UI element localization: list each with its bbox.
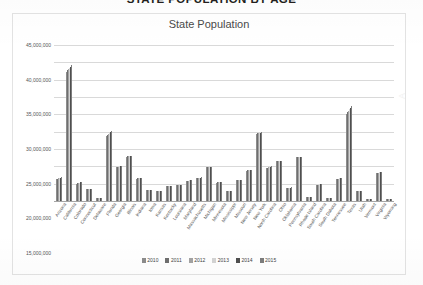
bar-group — [264, 45, 274, 201]
legend-label: 2010 — [147, 257, 158, 263]
bar — [161, 191, 162, 201]
bar — [61, 177, 62, 201]
legend-swatch — [189, 258, 193, 263]
bar — [181, 185, 182, 201]
plot-area: 45,000,00040,000,00035,000,00030,000,000… — [54, 45, 394, 201]
bar — [271, 166, 272, 201]
bar-group — [354, 45, 364, 201]
bar-group — [194, 45, 204, 201]
bar — [261, 132, 262, 201]
legend-swatch — [142, 258, 146, 263]
bar — [71, 65, 72, 201]
bar-group — [254, 45, 264, 201]
bar — [231, 191, 232, 201]
bar-group — [314, 45, 324, 201]
bar-group — [344, 45, 354, 201]
legend-swatch — [260, 258, 264, 263]
bar-group — [104, 45, 114, 201]
y-axis-tick-label: 15,000,000 — [26, 250, 51, 256]
bar-group — [334, 45, 344, 201]
bar-group — [174, 45, 184, 201]
bar — [211, 167, 212, 201]
bar — [341, 178, 342, 201]
bar — [91, 189, 92, 201]
bar-group — [164, 45, 174, 201]
legend-item[interactable]: 2014 — [236, 257, 253, 263]
bar-group — [124, 45, 134, 201]
y-axis-tick-label: 25,000,000 — [26, 181, 51, 187]
legend-label: 2015 — [265, 257, 276, 263]
bar — [301, 157, 302, 201]
bar-group — [64, 45, 74, 201]
legend-label: 2011 — [171, 257, 182, 263]
bar-group — [154, 45, 164, 201]
bar-group — [134, 45, 144, 201]
y-axis-tick-label: 40,000,000 — [26, 77, 51, 83]
watermark: A — [397, 92, 406, 99]
bar-group — [184, 45, 194, 201]
bar — [131, 156, 132, 201]
bar — [81, 182, 82, 201]
bar-groups — [54, 45, 394, 201]
bar-group — [244, 45, 254, 201]
bar-group — [74, 45, 84, 201]
bar-group — [234, 45, 244, 201]
bar-group — [364, 45, 374, 201]
legend-item[interactable]: 2015 — [260, 257, 277, 263]
bar — [191, 180, 192, 201]
bar — [151, 190, 152, 201]
bar — [291, 187, 292, 201]
legend-item[interactable]: 2012 — [189, 257, 206, 263]
chart-title: State Population — [13, 18, 405, 30]
bar — [361, 191, 362, 201]
legend-item[interactable]: 2010 — [142, 257, 159, 263]
bar — [381, 172, 382, 201]
x-axis-labels: ArizonaCaliforniaColoradoConnecticutDela… — [54, 202, 394, 264]
bar — [241, 180, 242, 201]
legend-item[interactable]: 2011 — [165, 257, 181, 263]
bar-group — [204, 45, 214, 201]
bar-group — [84, 45, 94, 201]
bar-group — [284, 45, 294, 201]
legend-swatch — [236, 258, 240, 263]
chart-legend: 201020112012201320142015 — [13, 257, 405, 263]
bar — [171, 186, 172, 201]
chart-container: State Population 45,000,00040,000,00035,… — [12, 13, 406, 275]
legend-swatch — [212, 258, 216, 263]
bar-group — [304, 45, 314, 201]
y-axis-tick-label: 45,000,000 — [26, 42, 51, 48]
bar-group — [374, 45, 384, 201]
bar — [201, 177, 202, 201]
bar — [111, 131, 112, 201]
bar-group — [294, 45, 304, 201]
legend-swatch — [165, 258, 169, 263]
legend-item[interactable]: 2013 — [212, 257, 229, 263]
bar — [251, 170, 252, 201]
y-axis-tick-label: 20,000,000 — [26, 215, 51, 221]
bar-group — [114, 45, 124, 201]
bar-group — [384, 45, 394, 201]
bar — [281, 161, 282, 201]
page-title: STATE POPULATION BY AGE — [0, 0, 423, 9]
bar — [221, 182, 222, 201]
bar — [321, 184, 322, 201]
bar-group — [214, 45, 224, 201]
legend-label: 2014 — [241, 257, 252, 263]
legend-label: 2012 — [194, 257, 205, 263]
legend-label: 2013 — [218, 257, 229, 263]
bar-group — [94, 45, 104, 201]
x-axis-tick-label: Texas — [346, 202, 357, 215]
bar-group — [224, 45, 234, 201]
bar-group — [54, 45, 64, 201]
bar-group — [144, 45, 154, 201]
bar — [121, 166, 122, 201]
bar — [141, 178, 142, 201]
bar-group — [324, 45, 334, 201]
y-axis-tick-label: 35,000,000 — [26, 111, 51, 117]
y-axis-tick-label: 30,000,000 — [26, 146, 51, 152]
bar-group — [274, 45, 284, 201]
bar — [351, 106, 352, 201]
